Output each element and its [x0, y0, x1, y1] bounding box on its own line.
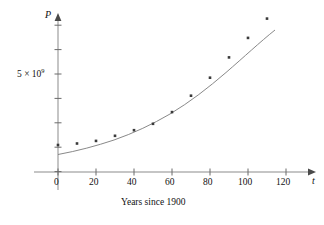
chart-canvas: [0, 0, 324, 225]
x-axis-name: t: [312, 175, 315, 186]
data-point-markers: [57, 17, 269, 146]
x-axis-caption: Years since 1900: [121, 197, 185, 207]
x-tick-label-60: 60: [165, 177, 175, 187]
data-point: [266, 17, 269, 20]
data-point: [247, 37, 250, 40]
data-point: [228, 56, 231, 59]
data-point: [209, 76, 212, 79]
data-point: [114, 135, 117, 138]
data-point: [133, 129, 136, 132]
x-tick-label-80: 80: [203, 177, 213, 187]
x-tick-label-40: 40: [127, 177, 137, 187]
data-point: [57, 144, 60, 147]
y-tick-label-exponent: 9: [41, 67, 44, 74]
data-point: [171, 111, 174, 114]
data-point: [190, 94, 193, 97]
y-axis-arrowhead: [55, 13, 62, 21]
x-tick-label-100: 100: [238, 177, 252, 187]
y-tick-label-5e9: 5 × 109: [17, 67, 45, 79]
model-curve: [58, 30, 275, 155]
y-axis-name: P: [45, 9, 51, 20]
population-growth-chart: P t 5 × 109 0 20 40 60 80 100 120 Years …: [0, 0, 324, 225]
x-tick-label-20: 20: [89, 177, 99, 187]
x-tick-label-120: 120: [276, 177, 290, 187]
data-point: [95, 140, 98, 143]
data-point: [152, 123, 155, 126]
x-tick-label-0: 0: [54, 177, 59, 187]
y-tick-label-mantissa: 5 × 10: [17, 69, 41, 79]
data-point: [76, 142, 79, 145]
